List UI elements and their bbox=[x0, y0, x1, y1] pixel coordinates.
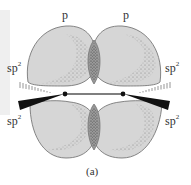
pi-bond-orbital-diagram bbox=[0, 0, 191, 185]
label-p-left: p bbox=[62, 9, 68, 21]
p-orbital-bottom-left-lobe bbox=[30, 101, 96, 158]
figure-caption: (a) bbox=[86, 165, 98, 177]
label-p-right: p bbox=[123, 9, 129, 21]
carbon-atom-left bbox=[63, 92, 68, 97]
p-orbital-top-left-lobe bbox=[27, 26, 96, 86]
label-sp2-bottom-right: sp2 bbox=[165, 115, 179, 127]
label-sp2-top-right: sp2 bbox=[165, 62, 179, 74]
label-sp2-top-left: sp2 bbox=[7, 62, 21, 74]
label-sp2-bottom-left: sp2 bbox=[7, 115, 21, 127]
carbon-atom-right bbox=[121, 92, 126, 97]
p-orbital-bottom-right-lobe bbox=[92, 101, 162, 158]
p-orbital-top-right-lobe bbox=[92, 26, 161, 86]
